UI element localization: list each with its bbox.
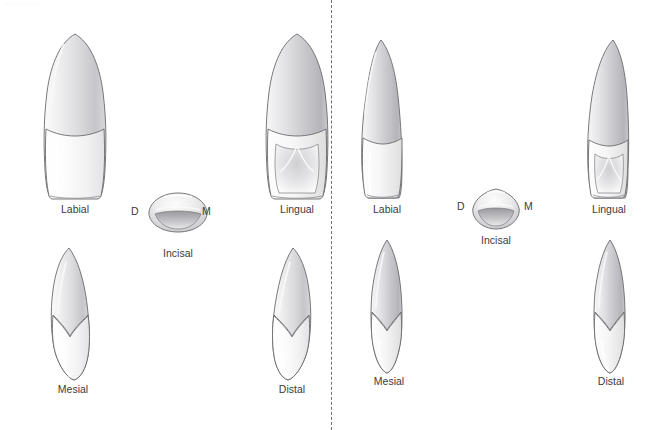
tooth-central-incisal: [149, 193, 207, 232]
tooth-lateral-labial: [362, 40, 402, 198]
label-central-incisal: Incisal: [144, 247, 212, 259]
tooth-central-lingual: [266, 34, 328, 199]
label-lateral-labial: Labial: [353, 203, 421, 215]
label-central-distal: Distal: [258, 383, 326, 395]
label-lateral-lingual: Lingual: [575, 203, 643, 215]
label-central-labial: Labial: [41, 203, 109, 215]
tooth-lateral-mesial: [371, 240, 402, 373]
label-central-mesial: Mesial: [39, 383, 107, 395]
label-central-mesial-letter: M: [202, 205, 211, 217]
tooth-illustrations: [0, 0, 661, 430]
label-lateral-mesial-letter: M: [524, 200, 533, 212]
label-central-distal-letter: D: [131, 205, 139, 217]
tooth-central-distal: [273, 248, 311, 380]
label-lateral-distal: Distal: [577, 375, 645, 387]
tooth-lateral-distal: [594, 240, 625, 373]
label-lateral-distal-letter: D: [457, 200, 465, 212]
dental-anatomy-figure: Anterior teeth: [0, 0, 661, 430]
tooth-lateral-lingual: [588, 40, 629, 198]
label-central-lingual: Lingual: [263, 203, 331, 215]
label-lateral-incisal: Incisal: [462, 234, 530, 246]
tooth-central-mesial: [51, 248, 89, 380]
label-lateral-mesial: Mesial: [355, 375, 423, 387]
tooth-central-labial: [44, 34, 106, 199]
tooth-lateral-incisal: [473, 189, 519, 229]
